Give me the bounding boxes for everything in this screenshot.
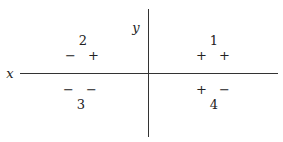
x-axis-line: [20, 73, 278, 74]
quadrant-1-signs: + +: [196, 49, 234, 62]
x-axis-label: x: [6, 67, 13, 80]
quadrant-3-number: 3: [77, 98, 85, 111]
quadrant-3-signs: − −: [63, 83, 101, 96]
quadrant-2-number: 2: [79, 34, 87, 47]
quadrant-2-signs: − +: [65, 49, 103, 62]
y-axis-label: y: [132, 21, 139, 34]
quadrant-4-signs: + −: [196, 83, 234, 96]
quadrant-1-number: 1: [210, 34, 218, 47]
y-axis-line: [148, 9, 149, 137]
quadrant-4-number: 4: [210, 98, 218, 111]
